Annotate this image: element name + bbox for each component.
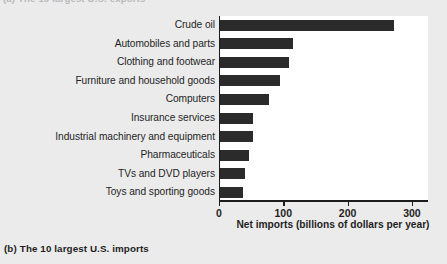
category-label: Toys and sporting goods — [0, 186, 215, 197]
x-tick-mark — [283, 202, 284, 206]
x-tick-label: 200 — [339, 207, 357, 219]
figure-caption: (b)The 10 largest U.S. imports — [4, 243, 149, 254]
y-axis-category-labels: Crude oilAutomobiles and partsClothing a… — [0, 16, 215, 202]
x-tick-mark — [412, 202, 413, 206]
x-tick-mark — [348, 202, 349, 206]
bar — [220, 38, 293, 49]
category-label: Industrial machinery and equipment — [0, 131, 215, 142]
category-label: Computers — [0, 93, 215, 104]
bar — [220, 94, 269, 105]
bar — [220, 20, 394, 31]
category-label: Crude oil — [0, 19, 215, 30]
category-label: Furniture and household goods — [0, 75, 215, 86]
bar — [220, 113, 253, 124]
x-tick-label: 100 — [275, 207, 293, 219]
bar — [220, 57, 289, 68]
category-label: Insurance services — [0, 112, 215, 123]
category-label: Clothing and footwear — [0, 56, 215, 67]
figure-panel-b: Crude oilAutomobiles and partsClothing a… — [0, 0, 447, 264]
bar — [220, 187, 243, 198]
category-label: Pharmaceuticals — [0, 149, 215, 160]
caption-label: (b) — [4, 243, 17, 254]
bar — [220, 131, 253, 142]
x-axis-title: Net imports (billions of dollars per yea… — [219, 219, 447, 230]
bar — [220, 150, 249, 161]
x-tick-label: 300 — [403, 207, 421, 219]
category-label: Automobiles and parts — [0, 38, 215, 49]
x-tick-mark — [219, 202, 220, 206]
x-tick-label: 0 — [216, 207, 222, 219]
bar-series — [220, 16, 428, 202]
bar — [220, 75, 280, 86]
category-label: TVs and DVD players — [0, 168, 215, 179]
caption-text: The 10 largest U.S. imports — [20, 243, 149, 254]
bar — [220, 168, 245, 179]
